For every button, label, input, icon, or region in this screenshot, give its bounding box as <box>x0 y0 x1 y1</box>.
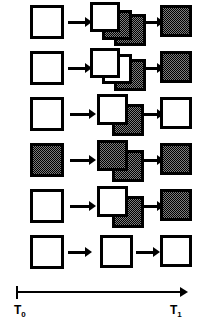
state-square-empty <box>30 51 64 85</box>
state-square-empty <box>30 235 64 269</box>
axis-start-label: T0 <box>14 304 26 319</box>
state-square-filled <box>160 51 192 83</box>
sequence-row <box>0 92 198 138</box>
state-square-filled <box>160 189 192 221</box>
transition-arrow <box>68 63 92 74</box>
sequence-row <box>0 138 198 184</box>
axis-end-label: T1 <box>170 304 182 319</box>
time-axis: T0 T1 <box>0 284 198 324</box>
state-square-filled <box>30 143 64 177</box>
sequence-row <box>0 184 198 230</box>
axis-arrowhead-icon <box>180 287 188 297</box>
sequence-row <box>0 230 198 276</box>
state-square-empty <box>160 97 192 129</box>
figure-canvas: T0 T1 <box>0 0 198 324</box>
state-square-empty <box>97 186 128 217</box>
state-square-empty <box>97 94 128 125</box>
transition-arrow <box>68 17 92 28</box>
axis-end-label-subscript: 1 <box>177 310 181 319</box>
state-square-filled <box>160 143 192 175</box>
transition-arrow <box>70 109 96 120</box>
transition-arrow <box>136 247 160 258</box>
state-square-empty <box>30 5 64 39</box>
transition-arrow <box>70 201 96 212</box>
state-square-filled <box>160 5 192 37</box>
state-square-empty <box>30 189 64 223</box>
state-square-empty <box>160 235 192 267</box>
sequence-row <box>0 0 198 46</box>
state-square-empty <box>90 2 120 32</box>
sequence-row <box>0 46 198 92</box>
axis-start-label-subscript: 0 <box>21 310 25 319</box>
axis-line <box>16 291 182 293</box>
state-square-empty <box>90 48 120 78</box>
state-square-empty <box>30 97 64 131</box>
transition-arrow <box>70 155 96 166</box>
state-square-empty <box>100 235 133 268</box>
state-square-filled <box>97 140 128 171</box>
transition-arrow <box>68 247 92 258</box>
